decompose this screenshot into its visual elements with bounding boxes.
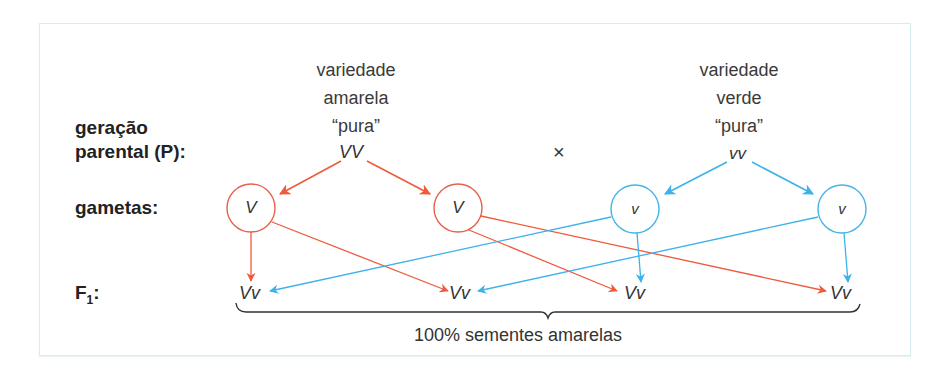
gamete-2: V: [448, 198, 468, 218]
yellow-variety-line2: amarela: [276, 86, 436, 110]
label-parental-line2: parental (P):: [75, 140, 186, 164]
gamete-4: v: [832, 199, 852, 219]
f1-genotype-1: Vv: [239, 283, 260, 303]
yellow-genotype: VV: [339, 142, 363, 162]
yellow-variety-line3: “pura”: [276, 114, 436, 138]
green-variety-line2: verde: [659, 86, 819, 110]
yellow-variety-line1: variedade: [276, 58, 436, 82]
gamete-3: v: [625, 199, 645, 219]
green-variety-line3: “pura”: [659, 114, 819, 138]
green-genotype: vv: [729, 144, 746, 164]
brace: [236, 303, 860, 318]
label-gametes: gametas:: [75, 196, 158, 220]
f1-genotype-4: Vv: [830, 283, 851, 303]
gamete-1: V: [241, 198, 261, 218]
f1-genotype-2: Vv: [449, 283, 470, 303]
cross-symbol: ×: [553, 141, 565, 164]
f1-summary: 100% sementes amarelas: [414, 325, 622, 346]
f1-genotype-3: Vv: [624, 283, 645, 303]
label-parental-line1: geração: [75, 116, 148, 140]
label-f1: F1:: [75, 281, 100, 312]
green-variety-line1: variedade: [659, 58, 819, 82]
